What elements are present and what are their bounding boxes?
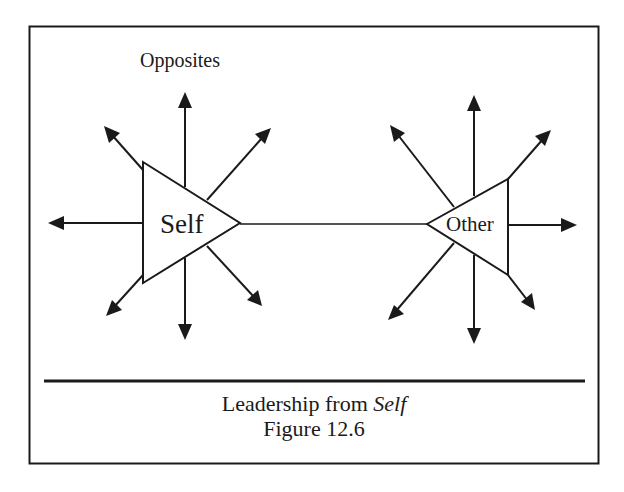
other-arrow-right: [508, 218, 577, 232]
other-arrow-down-right: [508, 275, 535, 310]
other-node-label: Other: [446, 214, 494, 235]
other-arrow-up-right: [508, 130, 551, 179]
other-arrow-down-left: [388, 243, 454, 320]
self-arrow-down: [178, 258, 192, 340]
other-arrow-up: [467, 95, 481, 196]
self-arrow-up-right: [207, 128, 271, 200]
self-arrow-left: [48, 216, 143, 230]
figure-caption-title: Leadership from Self: [29, 393, 599, 415]
self-node-label: Self: [160, 211, 204, 238]
self-arrow-up-left: [104, 126, 143, 170]
self-arrow-down-right: [207, 246, 262, 306]
self-arrow-up: [178, 92, 192, 187]
caption-prefix: Leadership from: [222, 391, 374, 416]
other-arrow-down: [467, 255, 481, 344]
self-arrow-down-left: [106, 275, 143, 316]
caption-emphasis: Self: [373, 391, 406, 416]
opposites-label: Opposites: [140, 50, 220, 70]
figure-number: Figure 12.6: [29, 418, 599, 440]
other-arrow-up-left: [390, 125, 454, 207]
